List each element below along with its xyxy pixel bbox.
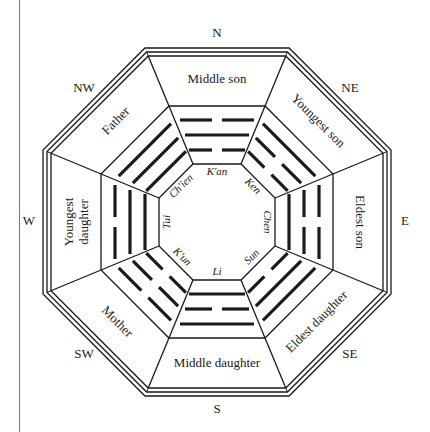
trigram-line-broken-b bbox=[146, 253, 162, 269]
sector-divider bbox=[148, 56, 193, 164]
direction-label-s: S bbox=[213, 401, 220, 416]
trigram-line-solid bbox=[133, 138, 178, 183]
outer-border-inline bbox=[47, 52, 387, 392]
direction-label-sw: SW bbox=[74, 346, 94, 361]
relationship-label-middle-son: Middle son bbox=[188, 71, 247, 86]
direction-label-e: E bbox=[401, 213, 409, 228]
trigram-line-broken-a bbox=[148, 298, 171, 321]
sector-divider bbox=[275, 153, 383, 198]
bagua-diagram: NMiddle sonK'anNEYoungest sonKenEEldest … bbox=[0, 0, 430, 432]
trigram-name-li: Li bbox=[211, 265, 221, 277]
trigram-ring-outer bbox=[101, 106, 333, 338]
trigram-name-tui: Tui bbox=[160, 215, 172, 229]
direction-label-ne: NE bbox=[341, 80, 358, 95]
sector-divider bbox=[241, 280, 286, 388]
relationship-line-1: Youngest bbox=[61, 197, 76, 246]
trigram-line-broken-b bbox=[248, 276, 264, 292]
trigram-kan bbox=[180, 120, 254, 150]
direction-label-se: SE bbox=[342, 346, 357, 361]
trigrams bbox=[115, 120, 319, 324]
trigram-name-ken: Ken bbox=[242, 174, 264, 196]
trigram-line-solid bbox=[256, 261, 301, 306]
relationship-label-mother: Mother bbox=[99, 302, 137, 340]
trigram-line-broken-b bbox=[271, 175, 287, 191]
trigram-line-broken-a bbox=[170, 276, 186, 292]
relationship-label-middle-daughter: Middle daughter bbox=[174, 355, 261, 370]
trigram-line-broken-a bbox=[256, 138, 275, 157]
trigram-name-sun: Sun bbox=[241, 246, 262, 267]
trigram-line-broken-a bbox=[271, 253, 287, 269]
direction-label-n: N bbox=[212, 25, 222, 40]
relationship-label-father: Father bbox=[98, 103, 133, 138]
sector-divider bbox=[275, 246, 383, 291]
trigram-line-broken-b bbox=[282, 164, 301, 183]
relationship-label-youngest-daughter: Youngestdaughter bbox=[61, 197, 91, 246]
trigram-line-solid bbox=[119, 124, 171, 176]
relationship-line-2: daughter bbox=[76, 199, 91, 245]
trigram-chen bbox=[289, 185, 319, 259]
labels: NMiddle sonK'anNEYoungest sonKenEEldest … bbox=[23, 25, 409, 416]
trigram-line-solid bbox=[263, 268, 315, 320]
trigram-name-kan: K'an bbox=[206, 165, 228, 177]
trigram-line-solid bbox=[263, 124, 315, 176]
sector-divider bbox=[241, 56, 286, 164]
direction-label-nw: NW bbox=[73, 80, 95, 95]
octagon-rings bbox=[43, 48, 391, 396]
sector-divider bbox=[51, 246, 159, 291]
direction-label-w: W bbox=[23, 213, 36, 228]
outer-border-outline bbox=[43, 48, 391, 396]
trigram-line-broken-b bbox=[133, 261, 152, 280]
sector-divider bbox=[51, 153, 159, 198]
trigram-line-broken-a bbox=[248, 151, 264, 167]
trigram-name-kun: K'un bbox=[170, 244, 194, 268]
trigram-line-broken-b bbox=[119, 268, 142, 291]
sector-dividers bbox=[47, 52, 387, 392]
trigram-tui bbox=[115, 185, 145, 259]
trigram-li bbox=[180, 294, 254, 324]
trigram-name-chen: Chen bbox=[262, 210, 274, 234]
trigram-line-broken-a bbox=[159, 287, 178, 306]
bagua-svg: NMiddle sonK'anNEYoungest sonKenEEldest … bbox=[0, 0, 430, 432]
trigram-name-chien: Ch'ien bbox=[166, 171, 195, 200]
sector-divider bbox=[148, 280, 193, 388]
relationship-label-eldest-son: Eldest son bbox=[353, 195, 368, 249]
